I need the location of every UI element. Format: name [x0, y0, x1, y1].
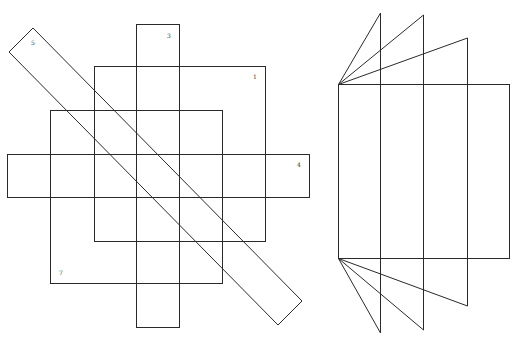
bottom-ray-3 — [339, 259, 468, 307]
left-figure: 1 3 4 5 7 — [8, 25, 310, 328]
rect-5 — [9, 28, 302, 325]
top-ray-3 — [339, 38, 468, 85]
label-1: 1 — [253, 73, 257, 80]
rect-4 — [8, 155, 310, 198]
top-ray-1 — [339, 13, 381, 85]
diagram-canvas: 1 3 4 5 7 — [0, 0, 515, 348]
rect-3 — [137, 25, 180, 328]
label-5: 5 — [31, 39, 35, 46]
label-3: 3 — [167, 32, 171, 39]
label-7: 7 — [59, 269, 63, 276]
bottom-ray-1 — [339, 259, 381, 334]
right-figure — [339, 13, 510, 333]
label-4: 4 — [297, 161, 301, 168]
